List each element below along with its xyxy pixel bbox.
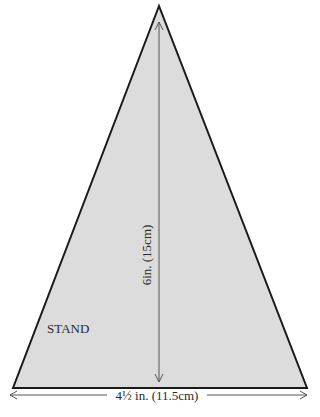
triangle-pattern-svg: 6in. (15cm) STAND 4½ in. (11.5cm)	[0, 0, 320, 417]
piece-label-stand: STAND	[47, 321, 89, 336]
height-label: 6in. (15cm)	[139, 225, 154, 286]
width-label: 4½ in. (11.5cm)	[116, 388, 199, 403]
pattern-diagram: 6in. (15cm) STAND 4½ in. (11.5cm)	[0, 0, 320, 417]
